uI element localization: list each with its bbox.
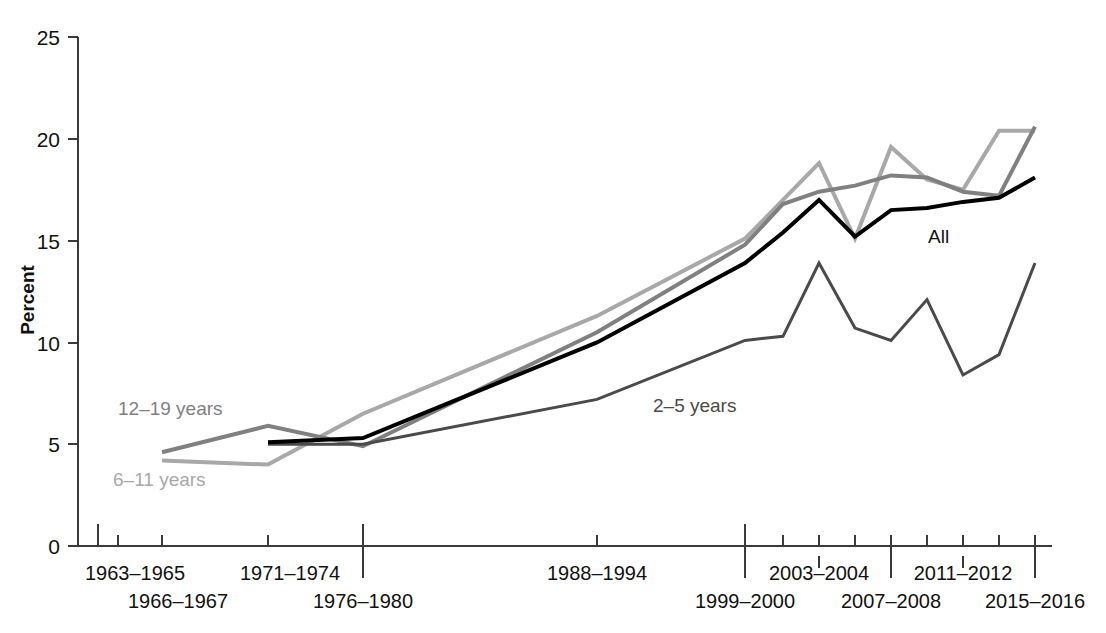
x-label-2003-2004: 2003–2004 <box>769 562 869 584</box>
series-annotation-2-5-years: 2–5 years <box>653 395 736 416</box>
y-tick-label-25: 25 <box>37 26 60 49</box>
series-annotation-12-19-years: 12–19 years <box>118 398 223 419</box>
series-annotation-6-11-years: 6–11 years <box>113 469 206 490</box>
y-tick-label-0: 0 <box>48 535 60 558</box>
x-label-1963-1965: 1963–1965 <box>85 562 185 584</box>
x-label-1966-1967: 1966–1967 <box>128 590 228 612</box>
y-tick-label-15: 15 <box>37 230 60 253</box>
line-chart: 25 20 15 10 5 0 Percent 1963–1965 1971– <box>0 0 1106 633</box>
x-label-1999-2000: 1999–2000 <box>695 590 795 612</box>
y-tick-label-20: 20 <box>37 128 60 151</box>
y-axis-title: Percent <box>17 264 38 334</box>
series-line-12-19-years <box>162 127 1035 453</box>
x-label-1988-1994: 1988–1994 <box>547 562 647 584</box>
y-tick-label-5: 5 <box>48 433 60 456</box>
x-label-1976-1980: 1976–1980 <box>313 590 413 612</box>
y-tick-label-10: 10 <box>37 332 60 355</box>
x-label-2011-2012: 2011–2012 <box>914 562 1013 584</box>
x-label-2007-2008: 2007–2008 <box>841 590 941 612</box>
x-label-2015-2016: 2015–2016 <box>985 590 1085 612</box>
series-annotation-all: All <box>928 226 949 247</box>
x-label-1971-1974: 1971–1974 <box>240 562 340 584</box>
chart-container: 25 20 15 10 5 0 Percent 1963–1965 1971– <box>0 0 1106 633</box>
series-line-2-5-years <box>268 263 1035 444</box>
series-line-6-11-years <box>162 131 1035 465</box>
